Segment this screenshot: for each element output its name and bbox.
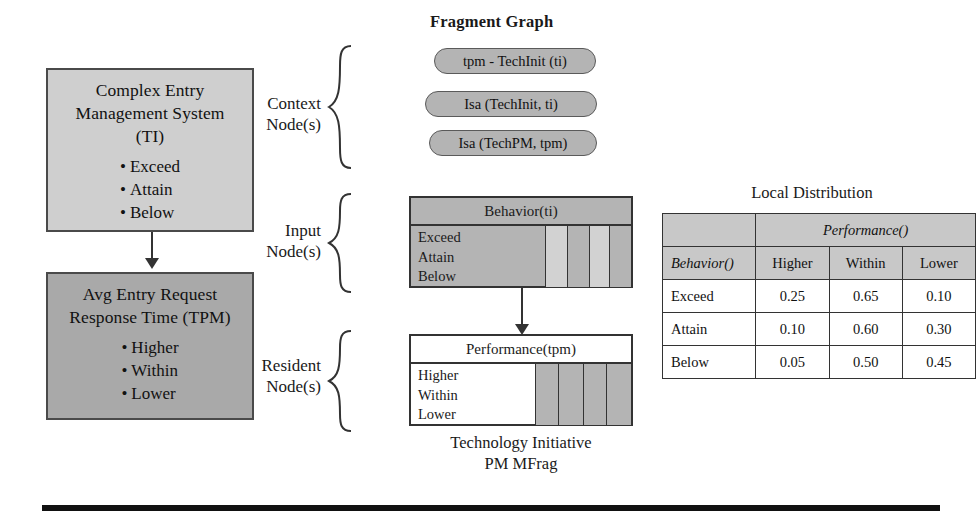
table-row-label-1: Attain: [663, 313, 756, 346]
node-connector-vertical: [521, 288, 523, 326]
table-row-header-label: Behavior(): [663, 247, 756, 280]
resident-node-performance-tpm: Performance(tpm) Higher Within Lower: [409, 334, 633, 426]
input-nodes-label-line-1: Input: [236, 220, 321, 241]
input-node-body: Exceed Attain Below: [411, 226, 631, 287]
entity-box-avg-entry-request-response-time: Avg Entry Request Response Time (TPM) •H…: [46, 272, 254, 420]
table-column-header-2: Lower: [902, 247, 975, 280]
resident-nodes-brace: [327, 329, 353, 433]
table-cell-1-0: 0.10: [756, 313, 829, 346]
input-node-bar-0: [545, 226, 567, 287]
entity-bottom-title-line-1: Avg Entry Request: [48, 283, 252, 306]
resident-node-state-0: Higher: [418, 366, 458, 386]
resident-node-bar-2: [583, 364, 606, 425]
entity-connector-arrowhead: [145, 258, 159, 269]
table-cell-2-0: 0.05: [756, 346, 829, 379]
entity-top-title-line-3: (TI): [48, 125, 252, 148]
context-nodes-label-line-1: Context: [236, 93, 321, 114]
bullet-icon: •: [120, 180, 126, 199]
table-row: Below 0.05 0.50 0.45: [663, 346, 976, 379]
entity-top-state-0: •Exceed: [120, 155, 180, 178]
table-row: Exceed 0.25 0.65 0.10: [663, 280, 976, 313]
context-nodes-brace: [327, 44, 353, 170]
resident-nodes-label-line-1: Resident: [228, 355, 321, 376]
entity-bottom-state-1: •Within: [121, 359, 178, 382]
entity-top-state-2: •Below: [120, 201, 180, 224]
table-column-header-0: Higher: [756, 247, 829, 280]
resident-nodes-label: Resident Node(s): [228, 355, 321, 397]
resident-node-body: Higher Within Lower: [411, 364, 631, 425]
resident-node-header: Performance(tpm): [411, 336, 631, 364]
bullet-icon: •: [120, 203, 126, 222]
entity-bottom-title: Avg Entry Request Response Time (TPM): [48, 274, 252, 329]
bullet-icon: •: [120, 157, 126, 176]
table-row-label-2: Below: [663, 346, 756, 379]
context-pill-0: tpm - TechInit (ti): [434, 48, 596, 74]
input-node-bar-1: [567, 226, 589, 287]
table-row: Attain 0.10 0.60 0.30: [663, 313, 976, 346]
entity-connector-line: [151, 232, 153, 260]
input-node-behavior-ti: Behavior(ti) Exceed Attain Below: [409, 196, 633, 288]
resident-node-bar-1: [558, 364, 584, 425]
bullet-icon: •: [121, 384, 127, 403]
table-cell-0-0: 0.25: [756, 280, 829, 313]
input-node-bar-group: [545, 226, 631, 287]
table-row-group-header: Performance(): [663, 214, 976, 247]
entity-bottom-state-0: •Higher: [121, 336, 178, 359]
mfrag-caption: Technology Initiative PM MFrag: [409, 432, 633, 474]
fragment-graph-title: Fragment Graph: [430, 12, 553, 32]
resident-node-state-1: Within: [418, 386, 458, 406]
table-row-label-0: Exceed: [663, 280, 756, 313]
input-nodes-label-line-2: Node(s): [236, 241, 321, 262]
input-node-state-list: Exceed Attain Below: [411, 226, 461, 287]
resident-node-state-list: Higher Within Lower: [411, 364, 458, 425]
entity-box-complex-entry-management-system: Complex Entry Management System (TI) •Ex…: [46, 68, 254, 232]
entity-top-state-list: •Exceed •Attain •Below: [120, 155, 180, 224]
context-pill-2: Isa (TechPM, tpm): [429, 130, 597, 156]
table-cell-0-2: 0.10: [902, 280, 975, 313]
entity-top-title-line-2: Management System: [48, 102, 252, 125]
local-distribution-table: Performance() Behavior() Higher Within L…: [662, 213, 976, 379]
entity-bottom-title-line-2: Response Time (TPM): [48, 306, 252, 329]
table-cell-1-1: 0.60: [829, 313, 902, 346]
entity-top-state-1: •Attain: [120, 178, 180, 201]
entity-top-title-line-1: Complex Entry: [48, 79, 252, 102]
input-nodes-label: Input Node(s): [236, 220, 321, 262]
mfrag-caption-line-2: PM MFrag: [409, 453, 633, 474]
resident-node-bar-3: [606, 364, 631, 425]
input-node-state-0: Exceed: [418, 228, 461, 248]
input-node-bar-2: [589, 226, 609, 287]
mfrag-caption-line-1: Technology Initiative: [409, 432, 633, 453]
entity-bottom-state-2: •Lower: [121, 382, 178, 405]
resident-node-bar-0: [535, 364, 558, 425]
context-nodes-label-line-2: Node(s): [236, 114, 321, 135]
entity-top-title: Complex Entry Management System (TI): [48, 70, 252, 148]
table-cell-2-1: 0.50: [829, 346, 902, 379]
footer-divider: [42, 505, 940, 511]
table-cell-0-1: 0.65: [829, 280, 902, 313]
input-node-state-1: Attain: [418, 248, 461, 268]
bullet-icon: •: [121, 338, 127, 357]
table-cell-1-2: 0.30: [902, 313, 975, 346]
table-row-column-headers: Behavior() Higher Within Lower: [663, 247, 976, 280]
table-cell-2-2: 0.45: [902, 346, 975, 379]
resident-nodes-label-line-2: Node(s): [228, 376, 321, 397]
resident-node-bar-group: [535, 364, 631, 425]
local-distribution-title: Local Distribution: [662, 183, 962, 203]
context-nodes-label: Context Node(s): [236, 93, 321, 135]
resident-node-state-2: Lower: [418, 405, 458, 425]
bullet-icon: •: [121, 361, 127, 380]
input-node-header: Behavior(ti): [411, 198, 631, 226]
table-corner-cell: [663, 214, 756, 247]
entity-bottom-state-list: •Higher •Within •Lower: [121, 336, 178, 405]
context-pill-1: Isa (TechInit, ti): [425, 91, 597, 117]
table-column-header-1: Within: [829, 247, 902, 280]
input-nodes-brace: [327, 192, 353, 294]
input-node-state-2: Below: [418, 267, 461, 287]
table-group-header: Performance(): [756, 214, 976, 247]
input-node-bar-3: [609, 226, 631, 287]
